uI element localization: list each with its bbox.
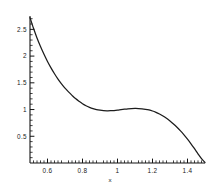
x-tick-label: 1.2 [148,167,158,174]
x-tick-label: 0.6 [43,167,53,174]
y-tick-label: 1 [23,106,27,113]
x-tick-label: 1.4 [183,167,193,174]
line-chart: 0.60.811.21.4 0.511.522.5 x [0,0,212,189]
x-tick-label: 1 [116,167,120,174]
x-tick-label: 0.8 [78,167,88,174]
y-tick-label: 0.5 [17,133,27,140]
y-tick-label: 2.5 [17,26,27,33]
y-tick-label: 1.5 [17,79,27,86]
chart-figure: 0.60.811.21.4 0.511.522.5 x [0,0,212,189]
y-tick-label: 2 [23,52,27,59]
